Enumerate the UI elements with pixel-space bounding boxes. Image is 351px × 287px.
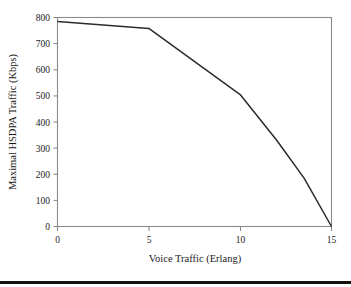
y-tick-label-100: 100 [36, 196, 51, 206]
y-tick-label-300: 300 [36, 144, 51, 154]
y-axis-ticks [54, 18, 58, 227]
y-tick-label-500: 500 [36, 91, 51, 101]
x-axis-tick-labels: 0 5 10 15 [55, 235, 336, 245]
y-tick-label-700: 700 [36, 39, 51, 49]
x-tick-label-5: 5 [147, 235, 152, 245]
x-axis-title: Voice Traffic (Erlang) [149, 253, 242, 265]
y-tick-label-200: 200 [36, 170, 51, 180]
data-series-line [58, 21, 332, 226]
x-tick-label-10: 10 [236, 235, 246, 245]
y-axis-title: Maximal HSDPA Traffic (Kbps) [7, 53, 19, 190]
y-tick-label-800: 800 [36, 13, 51, 23]
x-tick-label-0: 0 [55, 235, 60, 245]
x-tick-label-15: 15 [327, 235, 337, 245]
plot-frame [58, 18, 332, 227]
bottom-separator-rule [0, 281, 351, 284]
line-chart: 800 700 600 500 400 300 200 100 0 0 5 10… [0, 0, 351, 287]
figure-container: 800 700 600 500 400 300 200 100 0 0 5 10… [0, 0, 351, 287]
y-tick-label-0: 0 [45, 222, 50, 232]
y-tick-label-600: 600 [36, 65, 51, 75]
y-tick-label-400: 400 [36, 118, 51, 128]
x-axis-ticks [58, 227, 332, 232]
y-axis-tick-labels: 800 700 600 500 400 300 200 100 0 [36, 13, 51, 232]
